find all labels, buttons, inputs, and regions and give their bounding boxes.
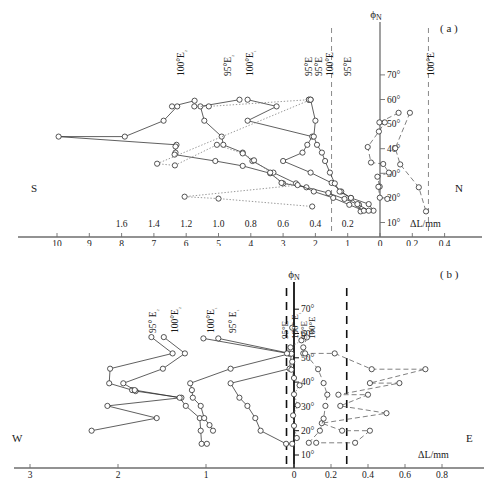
data-point (340, 428, 345, 433)
data-point (323, 158, 328, 163)
data-point (160, 366, 165, 371)
data-point (182, 351, 187, 356)
series-line-100Edotted (157, 100, 312, 207)
panel-a-series-label: 100°E (325, 52, 335, 76)
panel-b-axis-series-label: 95°E (280, 320, 290, 339)
data-point (353, 440, 358, 445)
data-point (207, 423, 212, 428)
data-point (170, 351, 175, 356)
panel-b-tag: ( b ) (440, 268, 458, 280)
data-point (291, 413, 296, 418)
data-point (377, 195, 382, 200)
data-point (214, 142, 219, 147)
data-point (289, 367, 294, 372)
data-point (132, 388, 137, 393)
data-point (295, 403, 300, 408)
data-point (198, 403, 203, 408)
data-point (199, 441, 204, 446)
data-point (365, 392, 370, 397)
data-point (367, 381, 372, 386)
panel-b-xtick: 0.6 (399, 470, 411, 480)
data-point (338, 403, 343, 408)
data-point (121, 381, 126, 386)
data-point (188, 381, 193, 386)
data-point (169, 104, 174, 109)
panel-a-series-label: 95°E (314, 57, 324, 76)
panel-a-xtick: 7 (152, 239, 157, 247)
panel-b-x-axis-label: ΔL/mm (418, 449, 449, 460)
panel-a-xtick-upper: 0.8 (245, 219, 257, 229)
data-point (149, 335, 154, 340)
data-point (316, 367, 321, 372)
data-point (321, 416, 326, 421)
panel-a-xtick: 0.2 (406, 239, 418, 247)
series-line-100E (59, 101, 361, 212)
panel-a-series-label: 95°E₂ (223, 54, 234, 76)
data-point (291, 392, 296, 397)
data-point (268, 170, 273, 175)
data-point (306, 440, 311, 445)
data-point (297, 383, 302, 388)
data-point (291, 375, 296, 380)
data-point (177, 395, 182, 400)
data-point (308, 170, 313, 175)
panel-a-xtick-upper: 0.2 (342, 219, 354, 229)
panel-a-xtick: 2 (313, 239, 318, 247)
panel-b-lat-tick: 30° (301, 402, 315, 412)
data-point (202, 118, 207, 123)
panel-a-xtick: 8 (119, 239, 124, 247)
data-point (237, 395, 242, 400)
panel-a-xtick-upper: 0.4 (309, 219, 321, 229)
data-point (310, 204, 315, 209)
panel-a-xtick: 4 (248, 239, 253, 247)
panel-a-direction-right: N (455, 182, 463, 194)
data-point (311, 189, 316, 194)
data-point (355, 202, 360, 207)
data-point (190, 395, 195, 400)
data-point (327, 170, 332, 175)
data-point (398, 162, 403, 167)
data-point (154, 416, 159, 421)
panel-a-xtick: 5 (216, 239, 221, 247)
panel-a-xtick-upper: 0.6 (277, 219, 289, 229)
data-point (213, 158, 218, 163)
data-point (301, 345, 306, 350)
data-point (321, 381, 326, 386)
data-point (423, 367, 428, 372)
panel-a-xtick: 0.4 (439, 239, 451, 247)
data-point (376, 129, 381, 134)
panel-a-direction-left: S (31, 182, 37, 194)
data-point (347, 202, 352, 207)
data-point (281, 158, 286, 163)
data-point (240, 163, 245, 168)
data-point (284, 351, 289, 356)
data-point (172, 152, 177, 157)
data-point (189, 388, 194, 393)
data-point (314, 142, 319, 147)
panel-a-lat-tick: 60° (387, 95, 401, 105)
data-point (290, 359, 295, 364)
panel-b: 32100.20.40.60.810°20°30°40°50°60°70°ϕNΔ… (0, 246, 491, 492)
panel-b-series-label: 100°E₁ (206, 307, 217, 333)
series-line-95E (92, 337, 182, 431)
panel-b-lat-tick: 10° (301, 450, 315, 460)
data-point (291, 423, 296, 428)
panel-a-xtick-upper: 1.6 (116, 219, 128, 229)
series-line-100E (248, 100, 374, 211)
series-line-95E (218, 338, 292, 443)
data-point (348, 195, 353, 200)
data-point (323, 403, 328, 408)
panel-a-xtick: 9 (87, 239, 92, 247)
data-point (155, 161, 160, 166)
data-point (368, 160, 373, 165)
data-point (258, 428, 263, 433)
data-point (172, 163, 177, 168)
series-line-100ErightdashedA (303, 337, 425, 442)
data-point (206, 104, 211, 109)
data-point (407, 110, 412, 115)
data-point (216, 196, 221, 201)
data-point (313, 118, 318, 123)
data-point (202, 416, 207, 421)
panel-b-direction-left: W (12, 432, 22, 444)
data-point (122, 134, 127, 139)
